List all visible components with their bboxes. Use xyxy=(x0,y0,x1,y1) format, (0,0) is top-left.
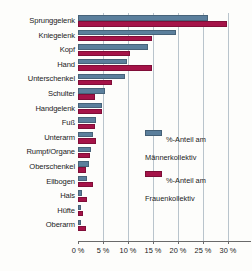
category-label: Fuß xyxy=(0,116,75,131)
bar-row: Sprunggelenk xyxy=(0,14,252,29)
category-label: Kniegelenk xyxy=(0,29,75,44)
legend-label-frauen: %-Anteil am Frauenkollektiv xyxy=(145,176,206,203)
x-tick-label: 15 % xyxy=(145,246,162,255)
category-label: Oberarm xyxy=(0,218,75,233)
category-label: Rumpf/Organe xyxy=(0,145,75,160)
bar-frauen xyxy=(78,182,93,187)
category-label: Hand xyxy=(0,58,75,73)
bar-row: Handgelenk xyxy=(0,102,252,117)
bar-row: Oberarm xyxy=(0,218,252,233)
category-label: Hüfte xyxy=(0,204,75,219)
chart-legend: %-Anteil am Männerkollektiv %-Anteil am … xyxy=(145,128,249,210)
legend-item-maenner: %-Anteil am Männerkollektiv xyxy=(145,128,249,164)
bar-group xyxy=(78,44,252,56)
bar-frauen xyxy=(78,94,95,99)
bar-maenner xyxy=(78,161,89,166)
bar-group xyxy=(78,30,252,42)
x-tick xyxy=(178,241,179,244)
bar-frauen xyxy=(78,138,96,143)
bar-frauen xyxy=(78,109,102,114)
bar-group xyxy=(78,220,252,232)
x-tick xyxy=(78,241,79,244)
bar-maenner xyxy=(78,220,81,225)
bar-frauen xyxy=(78,36,152,41)
bar-maenner xyxy=(78,117,96,122)
legend-swatch-frauen-icon xyxy=(145,171,162,177)
bar-group xyxy=(78,59,252,71)
bar-group xyxy=(78,15,252,27)
x-tick-label: 25 % xyxy=(195,246,212,255)
bar-group xyxy=(78,103,252,115)
bar-chart: SprunggelenkKniegelenkKopfHandUnterschen… xyxy=(0,0,252,271)
bar-frauen xyxy=(78,167,86,172)
bar-maenner xyxy=(78,103,102,108)
bar-row: Kopf xyxy=(0,43,252,58)
category-label: Kopf xyxy=(0,43,75,58)
bar-maenner xyxy=(78,74,125,79)
x-tick-label: 20 % xyxy=(170,246,187,255)
bar-maenner xyxy=(78,190,82,195)
x-tick-label: 0 % xyxy=(72,246,85,255)
bar-maenner xyxy=(78,205,81,210)
bar-frauen xyxy=(78,226,86,231)
legend-label-maenner: %-Anteil am Männerkollektiv xyxy=(145,135,206,162)
bar-frauen xyxy=(78,21,227,26)
x-tick xyxy=(203,241,204,244)
bar-frauen xyxy=(78,211,83,216)
bar-frauen xyxy=(78,124,95,129)
category-label: Ellbogen xyxy=(0,175,75,190)
x-tick xyxy=(103,241,104,244)
x-tick xyxy=(153,241,154,244)
bar-group xyxy=(78,74,252,86)
category-label: Schulter xyxy=(0,87,75,102)
bar-maenner xyxy=(78,15,208,20)
x-tick xyxy=(228,241,229,244)
bar-maenner xyxy=(78,44,148,49)
bar-row: Schulter xyxy=(0,87,252,102)
category-label: Unterschenkel xyxy=(0,72,75,87)
bar-frauen xyxy=(78,153,90,158)
bar-frauen xyxy=(78,197,87,202)
bar-maenner xyxy=(78,147,91,152)
bar-maenner xyxy=(78,176,87,181)
x-tick-label: 10 % xyxy=(120,246,137,255)
category-label: Unterarm xyxy=(0,131,75,146)
category-label: Oberschenkel xyxy=(0,160,75,175)
x-tick xyxy=(128,241,129,244)
bar-maenner xyxy=(78,88,105,93)
x-tick-label: 30 % xyxy=(220,246,237,255)
bar-row: Kniegelenk xyxy=(0,29,252,44)
plot-area: SprunggelenkKniegelenkKopfHandUnterschen… xyxy=(0,0,252,271)
legend-swatch-maenner-icon xyxy=(145,130,162,136)
bar-frauen xyxy=(78,65,152,70)
legend-item-frauen: %-Anteil am Frauenkollektiv xyxy=(145,169,249,205)
category-label: Sprunggelenk xyxy=(0,14,75,29)
category-label: Handgelenk xyxy=(0,102,75,117)
bar-maenner xyxy=(78,59,127,64)
category-label: Hals xyxy=(0,189,75,204)
bar-row: Unterschenkel xyxy=(0,72,252,87)
bar-frauen xyxy=(78,51,130,56)
bar-frauen xyxy=(78,80,112,85)
x-tick-label: 5 % xyxy=(97,246,110,255)
bar-row: Hand xyxy=(0,58,252,73)
bar-group xyxy=(78,88,252,100)
bar-maenner xyxy=(78,132,93,137)
bar-maenner xyxy=(78,30,176,35)
